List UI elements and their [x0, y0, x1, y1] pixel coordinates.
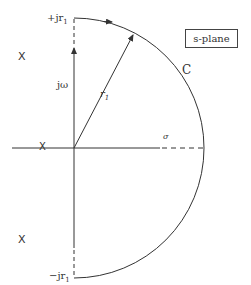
top-intercept-label: +jr1	[47, 13, 68, 26]
top-intercept-subscript: 1	[63, 18, 67, 26]
pole-upper-left: X	[18, 51, 26, 62]
pole-real-axis: X	[39, 142, 46, 152]
s-plane-diagram: +jr1 −jr1 jω r1 σ C s-plane X X X	[0, 0, 251, 285]
top-intercept-text: +jr	[47, 12, 63, 23]
bottom-intercept-subscript: 1	[65, 276, 69, 284]
contour-direction-arrow	[104, 22, 112, 23]
radius-label: r1	[100, 89, 109, 102]
s-plane-box: s-plane	[185, 29, 238, 48]
bottom-intercept-text: −jr	[49, 270, 65, 281]
radius-label-subscript: 1	[105, 94, 109, 102]
bottom-intercept-label: −jr1	[49, 271, 70, 284]
pole-lower-left: X	[18, 234, 26, 245]
real-axis-label: σ	[163, 133, 168, 141]
contour-label: C	[182, 64, 191, 76]
imaginary-axis-label: jω	[57, 80, 68, 90]
